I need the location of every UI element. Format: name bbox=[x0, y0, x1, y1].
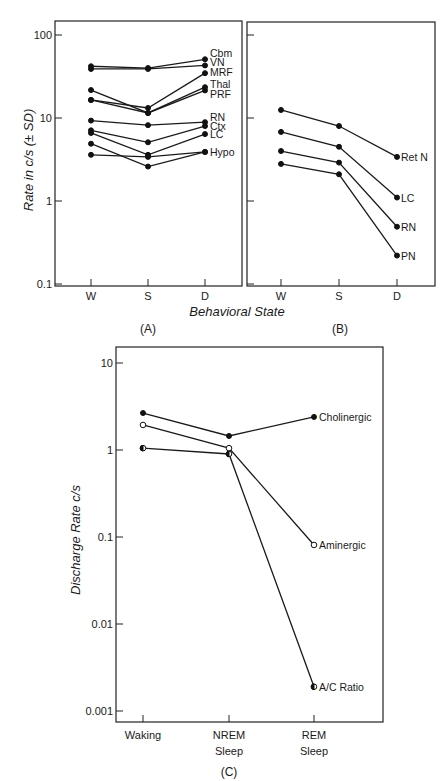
panel-a-data-point bbox=[146, 110, 151, 115]
panel-a-data-point bbox=[203, 132, 208, 137]
panel-b-data-point bbox=[279, 129, 284, 134]
panel-a-xtick-label: S bbox=[144, 290, 151, 302]
panel-c-data-point bbox=[226, 445, 232, 451]
panel-a-series-label: MRF bbox=[210, 66, 233, 78]
panel-b-data-point bbox=[279, 149, 284, 154]
panel-a-data-point bbox=[89, 130, 94, 135]
panel-c-data-point bbox=[141, 411, 146, 416]
panel-c-series-label: Aminergic bbox=[319, 539, 366, 551]
panel-b-data-point bbox=[279, 161, 284, 166]
panel-b-label: (B) bbox=[332, 322, 348, 336]
panel-a-data-point bbox=[89, 88, 94, 93]
panel-a-data-point bbox=[146, 105, 151, 110]
panel-a-ytick-label: 0.1 bbox=[37, 278, 52, 290]
panel-b-xtick-label: D bbox=[393, 290, 401, 302]
panel-c-series-line bbox=[143, 448, 314, 687]
panel-c-series-label: A/C Ratio bbox=[319, 681, 364, 693]
panel-b-series-label: PN bbox=[401, 250, 416, 262]
panel-a-data-point bbox=[89, 152, 94, 157]
panel-a-data-point bbox=[146, 66, 151, 71]
panel-b-series-label: RN bbox=[401, 221, 416, 233]
panel-a-data-point bbox=[146, 164, 151, 169]
panel-a-ytick-label: 10 bbox=[40, 112, 52, 124]
panel-b-xtick-label: S bbox=[335, 290, 342, 302]
panel-a-data-point bbox=[203, 124, 208, 129]
panel-c-xtick-label: Waking bbox=[125, 729, 161, 741]
panel-c-data-point-fill bbox=[226, 451, 229, 457]
panel-a-series-line bbox=[91, 73, 205, 108]
panel-c-series-line bbox=[143, 425, 314, 545]
panel-a-data-point bbox=[89, 118, 94, 123]
panel-c-data-point bbox=[312, 414, 317, 419]
panel-c-data-point bbox=[140, 422, 146, 428]
panel-a-series-label: Hypo bbox=[210, 146, 235, 158]
panel-c-xtick-label: REM bbox=[302, 729, 326, 741]
panel-a-ylabel: Rate in c/s (± SD) bbox=[21, 109, 36, 212]
panel-c-ytick-label: 0.1 bbox=[98, 531, 113, 543]
panel-b-data-point bbox=[337, 144, 342, 149]
panel-b-data-point bbox=[337, 160, 342, 165]
panel-b-series-label: LC bbox=[401, 192, 415, 204]
panel-a-label: (A) bbox=[140, 322, 156, 336]
panel-c-frame bbox=[116, 347, 383, 722]
panel-c-data-point-fill bbox=[140, 445, 143, 451]
panel-a-xtick-label: D bbox=[201, 290, 209, 302]
panel-a-data-point bbox=[146, 140, 151, 145]
panel-c-label: (C) bbox=[221, 765, 238, 779]
panel-c-data-point bbox=[227, 433, 232, 438]
panel-c-ylabel: Discharge Rate c/s bbox=[68, 485, 83, 595]
panel-a-ytick-label: 100 bbox=[34, 29, 52, 41]
x-axis-title: Behavioral State bbox=[189, 304, 284, 319]
panel-c-data-point-fill bbox=[311, 684, 314, 690]
panel-c-xtick-label: Sleep bbox=[215, 745, 243, 757]
panel-b-data-point bbox=[395, 154, 400, 159]
panel-b-series-line bbox=[281, 110, 397, 157]
panel-b-data-point bbox=[279, 107, 284, 112]
panel-b-data-point bbox=[395, 253, 400, 258]
panel-c-series-label: Cholinergic bbox=[319, 411, 372, 423]
panel-a-data-point bbox=[203, 71, 208, 76]
panel-a-data-point bbox=[89, 141, 94, 146]
panel-a-ytick-label: 1 bbox=[46, 195, 52, 207]
panel-b-series-label: Ret N bbox=[401, 151, 428, 163]
panel-a-data-point bbox=[203, 57, 208, 62]
panel-a-xtick-label: W bbox=[86, 290, 97, 302]
panel-a-data-point bbox=[89, 66, 94, 71]
panel-b-xtick-label: W bbox=[276, 290, 287, 302]
panel-a-data-point bbox=[146, 123, 151, 128]
panel-c-ytick-label: 1 bbox=[107, 444, 113, 456]
panel-b-data-point bbox=[337, 172, 342, 177]
panel-c-ytick-label: 0.01 bbox=[92, 618, 113, 630]
panel-b-data-point bbox=[337, 124, 342, 129]
panel-b-series-line bbox=[281, 164, 397, 256]
panel-a-data-point bbox=[203, 149, 208, 154]
panel-a-data-point bbox=[146, 154, 151, 159]
panel-a-data-point bbox=[89, 97, 94, 102]
panel-a-data-point bbox=[203, 88, 208, 93]
panel-a-series-label: LC bbox=[210, 128, 224, 140]
panel-c-xtick-label: NREM bbox=[213, 729, 245, 741]
panel-b-data-point bbox=[395, 195, 400, 200]
panel-a-data-point bbox=[203, 63, 208, 68]
panel-b-data-point bbox=[395, 224, 400, 229]
panel-c-xtick-label: Sleep bbox=[300, 745, 328, 757]
panel-a-series-label: PRF bbox=[210, 88, 231, 100]
panel-c-ytick-label: 10 bbox=[101, 357, 113, 369]
panel-c-data-point bbox=[311, 542, 317, 548]
figure: 1001010.1WSDCbmVNMRFThalPRFRNCtxLCHypoRa… bbox=[0, 0, 448, 781]
panel-c-ytick-label: 0.001 bbox=[85, 705, 113, 717]
